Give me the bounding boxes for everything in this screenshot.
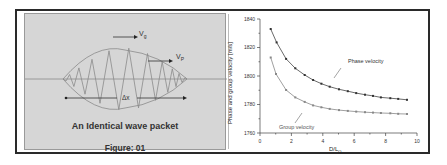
phase-velocity-annotation: Phase velocity [348, 58, 384, 64]
svg-text:8: 8 [384, 138, 387, 144]
svg-text:10: 10 [414, 138, 420, 144]
svg-text:1820: 1820 [244, 44, 255, 50]
svg-text:1780: 1780 [244, 101, 255, 107]
figure-label: Figure: 01 [25, 143, 225, 153]
svg-text:2: 2 [290, 138, 293, 144]
group-velocity-annotation: Group velocity [279, 124, 314, 130]
delta-x-label: Δx [122, 94, 130, 101]
x-axis-label: D/LO [329, 146, 341, 154]
svg-text:1840: 1840 [244, 16, 255, 22]
velocity-chart: 176017801800182018400246810 Phase veloci… [229, 10, 429, 155]
wave-packet-caption: An Identical wave packet [25, 121, 225, 131]
svg-text:1760: 1760 [244, 130, 255, 136]
svg-text:1800: 1800 [244, 73, 255, 79]
svg-text:4: 4 [321, 138, 324, 144]
svg-text:0: 0 [259, 138, 262, 144]
vg-label: Vg [139, 30, 147, 39]
vp-label: VP [176, 53, 185, 62]
wave-packet-panel: Vg VP Δx An Identical wave packet Figure… [24, 13, 226, 150]
svg-text:6: 6 [353, 138, 356, 144]
group-velocity-line [271, 58, 407, 115]
